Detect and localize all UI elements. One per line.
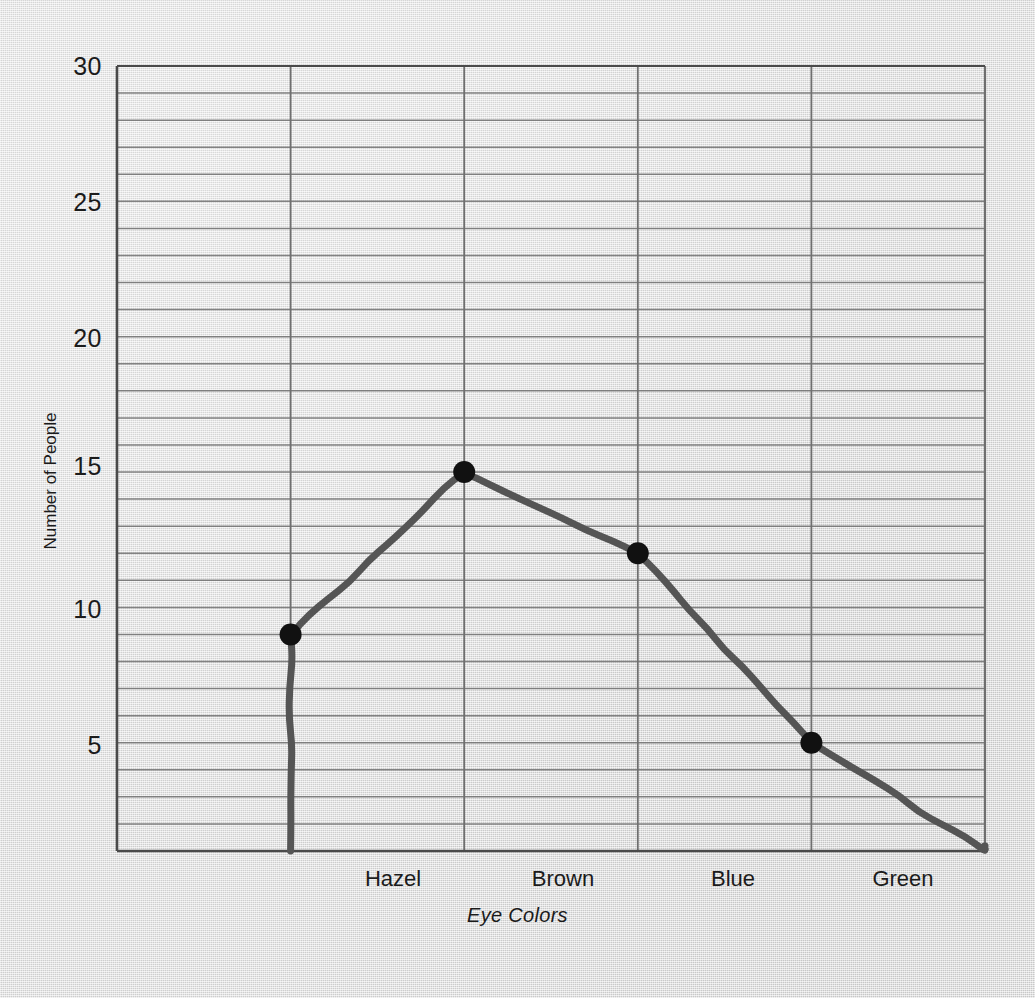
data-point-green [800, 732, 822, 754]
data-point-brown [453, 461, 475, 483]
y-tick-label-5: 5 [44, 731, 102, 760]
data-point-blue [627, 542, 649, 564]
axis-lines [117, 66, 985, 851]
y-tick-label-25: 25 [44, 188, 102, 217]
y-axis-title: Number of People [41, 381, 61, 581]
x-axis-title: Eye Colors [0, 904, 1035, 927]
vertical-gridlines [291, 66, 985, 851]
line-chart-figure: 30 25 20 15 10 5 Hazel Brown Blue Green … [0, 0, 1035, 998]
x-category-label-blue: Blue [653, 866, 813, 892]
y-tick-label-30: 30 [44, 52, 102, 81]
x-category-label-hazel: Hazel [313, 866, 473, 892]
x-category-label-green: Green [823, 866, 983, 892]
y-tick-label-10: 10 [44, 595, 102, 624]
x-category-label-brown: Brown [483, 866, 643, 892]
plot-area [0, 0, 1035, 998]
horizontal-gridlines [117, 66, 985, 851]
data-point-hazel [280, 623, 302, 645]
y-tick-label-20: 20 [44, 324, 102, 353]
